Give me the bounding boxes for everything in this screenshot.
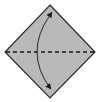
origami-fold-diagram [0, 0, 100, 102]
